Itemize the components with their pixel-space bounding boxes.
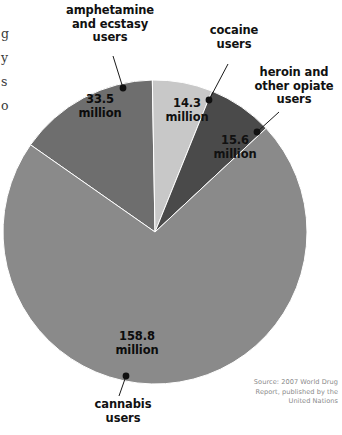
leader-line — [209, 64, 228, 100]
page-edge-cutoff-text: g y s o — [1, 22, 17, 118]
leader-dot-icon — [123, 373, 130, 380]
slice-value-amphetamine: 33.5 million — [55, 93, 145, 120]
slice-label-cocaine: cocaine users — [188, 24, 280, 51]
slice-label-amphetamine: amphetamine and ecstasy users — [40, 4, 180, 45]
leader-dot-icon — [120, 85, 127, 92]
slice-label-cannabis: cannabis users — [68, 398, 178, 425]
slice-value-cannabis: 158.8 million — [92, 330, 182, 357]
slice-value-heroin: 15.6 million — [203, 134, 267, 161]
slice-label-heroin: heroin and other opiate users — [246, 66, 342, 107]
leader-line — [257, 112, 279, 132]
pie-chart-figure: amphetamine and ecstasy users cocaine us… — [0, 0, 342, 435]
leader-line — [113, 56, 123, 88]
source-credit: Source: 2007 World Drug Report, publishe… — [222, 378, 338, 407]
slice-value-cocaine: 14.3 million — [156, 97, 218, 124]
